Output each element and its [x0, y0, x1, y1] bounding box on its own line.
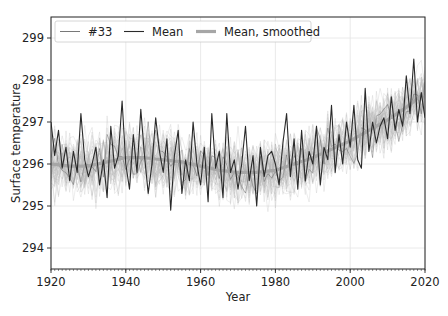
- legend-label-mean: Mean: [152, 25, 183, 39]
- x-tick-label: 1940: [111, 275, 140, 289]
- x-axis-label: Year: [225, 290, 251, 304]
- x-axis: 192019401960198020002020: [36, 269, 439, 289]
- y-tick-label: 294: [22, 241, 44, 255]
- legend: #33 Mean Mean, smoothed: [55, 21, 320, 42]
- x-tick-label: 1960: [186, 275, 215, 289]
- legend-label-mean-smoothed: Mean, smoothed: [224, 25, 320, 39]
- surface-temperature-chart: 192019401960198020002020 294295296297298…: [0, 0, 448, 316]
- x-tick-label: 1980: [261, 275, 290, 289]
- x-tick-label: 2020: [410, 275, 439, 289]
- y-axis: 294295296297298299: [22, 31, 51, 255]
- x-tick-label: 2000: [336, 275, 365, 289]
- x-tick-label: 1920: [36, 275, 65, 289]
- y-axis-label: Surface temperature: [9, 83, 23, 203]
- y-tick-label: 298: [22, 73, 44, 87]
- legend-label-member33: #33: [88, 25, 112, 39]
- y-tick-label: 296: [22, 157, 44, 171]
- y-tick-label: 295: [22, 199, 44, 213]
- y-tick-label: 299: [22, 31, 44, 45]
- y-tick-label: 297: [22, 115, 44, 129]
